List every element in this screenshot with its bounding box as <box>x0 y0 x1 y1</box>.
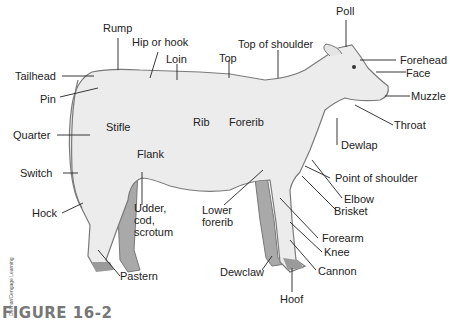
label-knee: Knee <box>324 246 350 258</box>
figure-caption: FIGURE 16-2 <box>2 304 112 322</box>
label-poll: Poll <box>336 5 354 17</box>
label-pastern: Pastern <box>120 270 158 282</box>
eye <box>352 65 356 69</box>
label-rib: Rib <box>193 116 210 128</box>
label-hock: Hock <box>32 207 57 219</box>
label-udder: Udder, cod, scrotum <box>134 202 184 238</box>
image-credit: Delmar/Cengage Learning <box>8 226 14 316</box>
label-cannon: Cannon <box>318 265 357 277</box>
label-muzzle: Muzzle <box>411 90 446 102</box>
label-throat: Throat <box>394 119 426 131</box>
label-forearm: Forearm <box>322 232 364 244</box>
label-rump: Rump <box>103 22 132 34</box>
label-stifle: Stifle <box>106 121 130 133</box>
label-forerib: Forerib <box>229 116 264 128</box>
label-top: Top <box>219 52 237 64</box>
label-tailhead: Tailhead <box>15 70 56 82</box>
label-elbow: Elbow <box>344 193 374 205</box>
label-hip: Hip or hook <box>132 36 188 48</box>
label-pin: Pin <box>40 93 56 105</box>
label-loin: Loin <box>166 53 187 65</box>
label-flank: Flank <box>137 148 164 160</box>
hind-hoof <box>92 262 114 272</box>
label-lower-forerib: Lower forerib <box>202 204 246 228</box>
label-top-of-shoulder: Top of shoulder <box>238 38 313 50</box>
label-quarter: Quarter <box>13 129 50 141</box>
ear <box>324 44 342 56</box>
label-forehead: Forehead <box>400 54 447 66</box>
label-brisket: Brisket <box>334 205 368 217</box>
label-dewlap: Dewlap <box>341 139 378 151</box>
label-dewclaw: Dewclaw <box>220 266 264 278</box>
label-point-of-shoulder: Point of shoulder <box>335 172 418 184</box>
label-face: Face <box>406 67 430 79</box>
label-hoof: Hoof <box>280 293 303 305</box>
label-switch: Switch <box>20 167 52 179</box>
